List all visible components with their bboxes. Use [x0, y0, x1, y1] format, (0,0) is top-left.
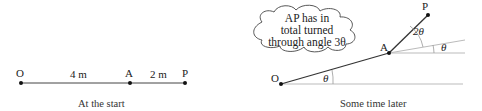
point-o-dot — [279, 82, 283, 86]
label-o: O — [271, 72, 279, 84]
angle-label-a-lower: θ — [441, 41, 447, 53]
rod-oa — [281, 53, 389, 84]
point-p-dot — [426, 13, 430, 17]
point-a-dot — [128, 81, 132, 85]
later-diagram: O A P θ θ 2θ AP has in total turned thro… — [254, 0, 465, 109]
cloud-line-3: through angle 3θ — [268, 36, 346, 49]
cloud-line-1: AP has in — [285, 12, 330, 24]
length-ap: 2 m — [150, 68, 167, 80]
angle-label-a-upper: 2θ — [413, 25, 425, 37]
angle-arc-o — [332, 70, 333, 84]
label-o: O — [16, 67, 24, 79]
cloud-line-2: total turned — [281, 24, 334, 36]
label-p: P — [422, 0, 428, 12]
angle-label-o: θ — [323, 72, 329, 84]
start-diagram: O A P 4 m 2 m At the start — [16, 67, 188, 109]
caption-later: Some time later — [340, 98, 407, 109]
label-a: A — [380, 41, 388, 53]
point-p-dot — [183, 81, 187, 85]
label-p: P — [182, 67, 188, 79]
angle-arc-a-lower — [433, 45, 434, 53]
label-a: A — [125, 67, 133, 79]
caption-start: At the start — [78, 98, 125, 109]
rod-rotation-diagram: O A P 4 m 2 m At the start O A P θ θ 2θ — [0, 0, 482, 111]
point-o-dot — [19, 81, 23, 85]
length-oa: 4 m — [70, 68, 87, 80]
